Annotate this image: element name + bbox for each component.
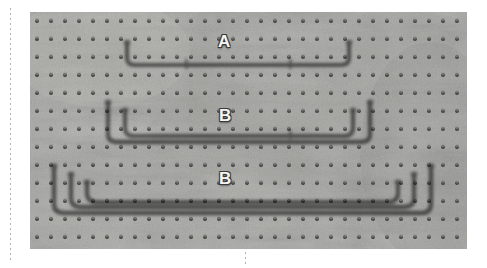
crop-guide-left-dotted-line (10, 8, 11, 260)
crop-guide-bottom-dotted-tick (245, 252, 246, 266)
part-label-b-middle: B (219, 107, 232, 124)
figure-root: A B B (0, 0, 487, 268)
part-label-b-bottom: B (219, 170, 232, 187)
pegboard-scene-svg (30, 12, 467, 249)
part-label-a: A (218, 33, 231, 50)
pegboard-photograph (30, 12, 467, 249)
